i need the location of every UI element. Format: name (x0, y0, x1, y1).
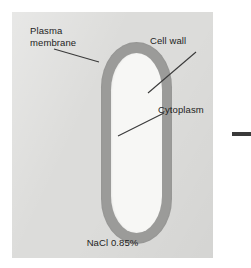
label-plasma-membrane: Plasma membrane (30, 25, 76, 48)
bacterial-cell-shape (101, 42, 172, 244)
edge-connector-bar (232, 132, 251, 136)
label-cell-wall: Cell wall (150, 35, 186, 47)
cell-diagram-figure: Plasma membrane Cell wall Cytoplasm NaCl… (0, 0, 251, 268)
solution-caption: NaCl 0.85% (12, 237, 213, 248)
illustration-panel (12, 12, 213, 258)
cytoplasm-region (111, 53, 162, 233)
label-cytoplasm: Cytoplasm (158, 104, 204, 116)
